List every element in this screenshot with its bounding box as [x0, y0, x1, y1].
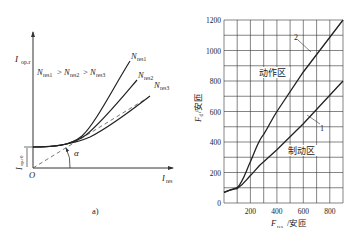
svg-text:/安匝: /安匝 — [287, 218, 307, 228]
angle-label: α — [74, 148, 79, 158]
svg-text:/安匝: /安匝 — [193, 93, 203, 113]
relation-s2: res2 — [70, 72, 79, 78]
line-2-label: 2 — [294, 33, 298, 42]
svg-text:400: 400 — [271, 207, 283, 216]
figure: I op.r N res1 > N res2 > N res3 N res1 N… — [0, 0, 354, 229]
relation-gt1: > — [57, 67, 62, 77]
svg-text:800: 800 — [324, 207, 336, 216]
svg-text:res: res — [277, 224, 283, 229]
y-tick-labels: 0 200 400 600 800 1000 1200 — [206, 16, 221, 208]
panel-a: I op.r N res1 > N res2 > N res3 N res1 N… — [14, 32, 173, 216]
caption-a: a) — [92, 206, 99, 216]
y-axis-sub: op.r — [21, 59, 31, 65]
region-operate-label: 动作区 — [259, 67, 286, 78]
line-2 — [224, 20, 343, 192]
svg-text:200: 200 — [210, 169, 222, 178]
angle-arc — [66, 148, 70, 168]
panel-b: 动作区 制动区 2 1 0 200 400 600 800 1000 1200 … — [193, 16, 343, 229]
offset-sub: op.r0 — [19, 155, 24, 166]
line-1 — [224, 81, 343, 192]
y-axis-label-b: F d /安匝 — [193, 93, 204, 123]
asymptote-dashed — [33, 100, 144, 168]
line-1-label: 1 — [320, 124, 324, 133]
curve-sub-nres1: res1 — [137, 56, 146, 62]
svg-text:600: 600 — [298, 207, 310, 216]
region-restrain-label: 制动区 — [288, 145, 315, 156]
curve-nres2 — [33, 80, 137, 147]
x-axis-sub: res — [166, 178, 172, 184]
x-tick-labels: 200 400 600 800 — [245, 207, 336, 216]
leader-1 — [307, 115, 320, 124]
relation-s1: res1 — [43, 72, 52, 78]
origin-label: O — [29, 170, 35, 180]
curve-sub-nres3: res3 — [160, 85, 169, 91]
x-axis-label-b: F res /安匝 — [270, 218, 307, 229]
svg-text:600: 600 — [210, 108, 222, 117]
curve-sub-nres2: res2 — [144, 75, 153, 81]
svg-text:400: 400 — [210, 138, 222, 147]
relation-gt2: > — [83, 67, 88, 77]
svg-text:800: 800 — [210, 77, 222, 86]
svg-text:F: F — [270, 218, 277, 228]
svg-text:1200: 1200 — [206, 16, 221, 25]
relation-s3: res3 — [96, 72, 105, 78]
offset-label: I — [15, 167, 24, 171]
svg-text:0: 0 — [217, 199, 221, 208]
svg-text:1000: 1000 — [206, 47, 221, 56]
curve-nres3 — [33, 96, 150, 147]
svg-text:200: 200 — [245, 207, 257, 216]
grid — [224, 20, 343, 203]
y-axis-label: I — [14, 54, 19, 64]
